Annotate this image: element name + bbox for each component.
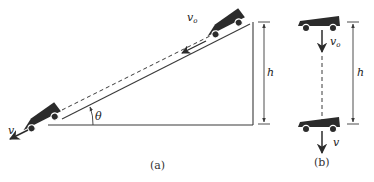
label-final-velocity-b: v xyxy=(333,137,339,148)
incline-triangle xyxy=(48,22,253,125)
diagram-canvas xyxy=(0,0,374,182)
label-angle-theta: θ xyxy=(95,111,102,122)
ramp-slope-line xyxy=(62,24,250,119)
label-initial-velocity-b: vo xyxy=(330,36,340,49)
cart-bottom-fall-icon xyxy=(298,117,340,133)
cart-path-dashed-line xyxy=(62,32,218,110)
label-initial-velocity-a: vo xyxy=(187,12,197,25)
angle-arc-icon xyxy=(90,107,93,125)
cart-bottom-incline-icon xyxy=(18,101,63,135)
caption-b: (b) xyxy=(314,157,330,168)
initial-velocity-arrow-icon xyxy=(182,41,206,53)
panel-b xyxy=(298,16,359,153)
caption-a: (a) xyxy=(150,160,165,171)
label-final-velocity-a: v xyxy=(8,125,14,136)
label-height-a: h xyxy=(267,67,274,78)
panel-a xyxy=(10,7,270,139)
cart-top-fall-icon xyxy=(298,16,340,32)
label-height-b: h xyxy=(357,67,364,78)
